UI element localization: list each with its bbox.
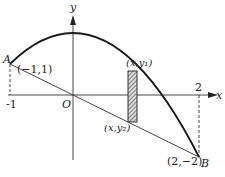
x-axis-label: x [216, 89, 223, 102]
strip-bottom-label: (x,y₂) [104, 122, 130, 133]
line-y-neg-x [10, 64, 199, 157]
y-axis-label: y [69, 1, 77, 14]
area-between-curves-diagram: y x O -1 2 A (−1,1) B (2,−2) (x,y₁) (x,y… [0, 0, 225, 177]
y-axis-arrow-icon [70, 15, 76, 25]
y-axis [70, 15, 76, 160]
point-a-name: A [2, 53, 11, 66]
tick-2-label: 2 [195, 81, 202, 94]
point-b-coords: (2,−2) [167, 155, 202, 168]
hatched-strip [128, 71, 137, 122]
strip-top-label: (x,y₁) [126, 57, 152, 68]
tick-neg1-label: -1 [6, 98, 17, 111]
origin-label: O [62, 98, 71, 111]
point-a-coords: (−1,1) [17, 63, 52, 76]
x-axis [8, 92, 218, 98]
